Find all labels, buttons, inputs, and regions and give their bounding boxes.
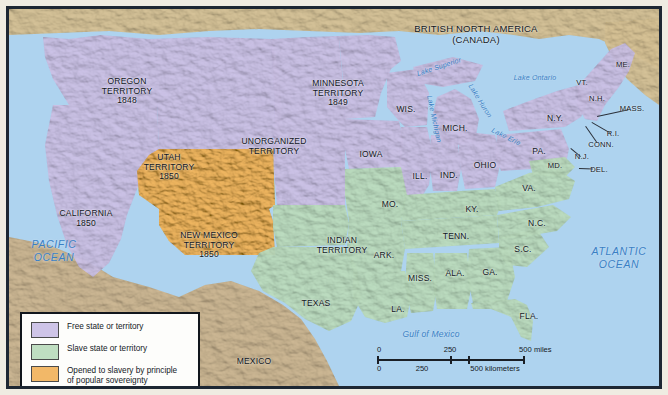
label-lake-ontario: Lake Ontario bbox=[514, 74, 556, 82]
label-tennessee: TENN. bbox=[443, 232, 470, 242]
map-frame: BRITISH NORTH AMERICA (CANADA) MEXICO PA… bbox=[6, 6, 662, 389]
legend-item-popular-sovereignty: Opened to slavery by principle of popula… bbox=[31, 365, 190, 385]
legend-item-free: Free state or territory bbox=[31, 321, 190, 338]
label-delaware: DEL. bbox=[590, 166, 608, 175]
label-mexico: MEXICO bbox=[237, 357, 272, 367]
label-unorganized-territory: UNORGANIZED TERRITORY bbox=[241, 137, 306, 156]
label-rhode-island: R.I. bbox=[607, 130, 620, 139]
label-maine: ME. bbox=[616, 61, 630, 70]
label-ohio: OHIO bbox=[474, 161, 497, 171]
label-florida: FLA. bbox=[520, 312, 539, 322]
label-illinois: ILL. bbox=[413, 172, 428, 182]
label-michigan: MICH. bbox=[442, 124, 467, 134]
legend-swatch-slave bbox=[31, 344, 59, 360]
scale-miles-tick-250: 250 bbox=[444, 345, 457, 354]
label-virginia: VA. bbox=[522, 184, 536, 194]
scale-miles-tick-0: 0 bbox=[377, 345, 381, 354]
label-indiana: IND. bbox=[440, 171, 458, 181]
label-louisiana: LA. bbox=[391, 305, 404, 315]
scale-bar-graphic bbox=[377, 356, 545, 364]
region-unorganized-territory bbox=[271, 37, 345, 205]
label-indian-territory: INDIAN TERRITORY bbox=[317, 236, 368, 255]
label-georgia: GA. bbox=[482, 268, 497, 278]
label-connecticut: CONN. bbox=[588, 141, 613, 150]
legend-swatch-popular-sovereignty bbox=[31, 366, 59, 382]
label-california: CALIFORNIA 1850 bbox=[59, 209, 112, 228]
label-utah-territory: UTAH TERRITORY 1850 bbox=[144, 153, 195, 182]
label-new-hampshire: N.H. bbox=[589, 95, 605, 104]
scale-tick-mark-end bbox=[523, 356, 525, 364]
label-alabama: ALA. bbox=[445, 269, 464, 279]
label-new-jersey: N.J. bbox=[575, 153, 589, 162]
legend-label-slave: Slave state or territory bbox=[67, 343, 147, 354]
label-kentucky: KY. bbox=[465, 205, 478, 215]
scale-km-tick-0: 0 bbox=[377, 364, 381, 373]
label-vermont: VT. bbox=[576, 79, 588, 88]
label-minnesota-territory: MINNESOTA TERRITORY 1849 bbox=[312, 79, 364, 108]
scale-kilometers-ticks: 0 250 500 kilometers bbox=[377, 364, 545, 375]
label-wisconsin: WIS. bbox=[396, 105, 415, 115]
label-canada: BRITISH NORTH AMERICA (CANADA) bbox=[414, 23, 537, 45]
label-iowa: IOWA bbox=[359, 150, 382, 160]
legend-item-slave: Slave state or territory bbox=[31, 343, 190, 360]
legend-label-free: Free state or territory bbox=[67, 321, 143, 332]
map-legend: Free state or territory Slave state or t… bbox=[20, 312, 200, 389]
label-texas: TEXAS bbox=[302, 299, 331, 309]
label-new-york: N.Y. bbox=[547, 114, 563, 124]
label-arkansas: ARK. bbox=[374, 251, 395, 261]
label-maryland: MD. bbox=[548, 162, 563, 171]
label-new-mexico-territory: NEW MEXICO TERRITORY 1850 bbox=[180, 231, 238, 260]
scale-tick-mark-mid bbox=[450, 356, 452, 364]
region-indiana bbox=[429, 135, 461, 191]
historical-map-figure: BRITISH NORTH AMERICA (CANADA) MEXICO PA… bbox=[0, 0, 668, 395]
map-scale-bar: 0 250 500 miles 0 250 500 kilometers bbox=[377, 345, 545, 375]
label-missouri: MO. bbox=[382, 200, 399, 210]
scale-miles-tick-500: 500 miles bbox=[519, 345, 552, 354]
scale-tick-mark-km-mid bbox=[468, 356, 470, 364]
region-missouri bbox=[345, 167, 407, 221]
label-pacific-ocean: PACIFIC OCEAN bbox=[32, 238, 77, 263]
label-gulf-of-mexico: Gulf of Mexico bbox=[402, 330, 459, 340]
label-mississippi: MISS. bbox=[408, 274, 432, 284]
label-south-carolina: S.C. bbox=[514, 245, 531, 255]
scale-km-tick-250: 250 bbox=[416, 364, 429, 373]
region-iowa bbox=[345, 119, 403, 169]
label-massachusetts: MASS. bbox=[620, 105, 645, 114]
label-north-carolina: N.C. bbox=[528, 219, 546, 229]
label-pennsylvania: PA. bbox=[532, 147, 546, 157]
scale-tick-mark-0 bbox=[377, 356, 379, 364]
legend-label-popular-sovereignty: Opened to slavery by principle of popula… bbox=[67, 365, 177, 385]
region-alabama bbox=[433, 253, 471, 309]
label-atlantic-ocean: ATLANTIC OCEAN bbox=[592, 245, 647, 270]
label-oregon-territory: OREGON TERRITORY 1848 bbox=[102, 77, 153, 106]
scale-km-tick-500: 500 kilometers bbox=[470, 364, 519, 373]
legend-swatch-free bbox=[31, 322, 59, 338]
scale-miles-ticks: 0 250 500 miles bbox=[377, 345, 545, 356]
